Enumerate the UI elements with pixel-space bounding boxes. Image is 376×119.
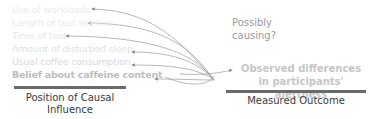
factor-belief: Belief about caffeine content [12,69,162,80]
factor-4: Usual coffee consumption [12,56,131,67]
left-divider [14,86,126,89]
factor-1: Length of test session [12,17,112,28]
measured-outcome-caption: Measured Outcome [226,95,366,107]
caption-line1: Position of Causal [14,92,126,104]
caption-line2: Influence [14,104,126,116]
arrow-to-factor-5 [155,79,214,80]
factor-3: Amount of disturbed sleep [12,43,133,54]
question-line1: Possibly [232,16,276,29]
possibly-causing-label: Possibly causing? [232,16,276,42]
right-divider [226,90,366,93]
position-caption: Position of Causal Influence [14,92,126,116]
question-line2: causing? [232,29,276,42]
factor-2: Time of test [12,30,66,41]
factor-0: Use of workloads [12,4,90,15]
outcome-line1: Observed differences [236,62,366,75]
